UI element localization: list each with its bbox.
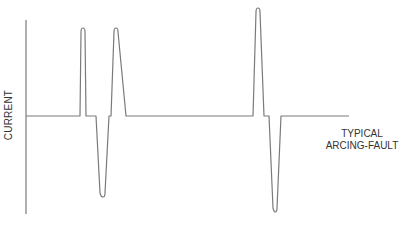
caption-line-2: ARCING-FAULT <box>322 140 400 152</box>
y-axis-label: CURRENT <box>3 90 14 140</box>
diagram-caption: TYPICAL ARCING-FAULT <box>322 128 400 152</box>
arcing-fault-diagram: CURRENT TYPICAL ARCING-FAULT <box>0 0 400 227</box>
current-waveform <box>26 8 349 212</box>
waveform-plot <box>0 0 400 227</box>
caption-line-1: TYPICAL <box>322 128 400 140</box>
